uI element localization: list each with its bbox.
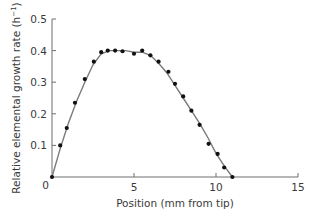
data-point — [198, 123, 202, 127]
y-tick-label: 0.1 — [30, 139, 47, 151]
data-point — [207, 142, 211, 146]
data-point — [73, 101, 77, 105]
x-tick-label: 5 — [131, 181, 138, 193]
data-point — [157, 60, 161, 64]
data-point — [120, 49, 124, 53]
data-point — [189, 109, 193, 113]
data-point — [132, 52, 136, 56]
data-point — [222, 165, 226, 169]
y-tick-label: 0.2 — [30, 108, 47, 120]
data-point — [113, 49, 117, 53]
data-point — [65, 126, 69, 130]
x-ticks: 51015 — [131, 173, 305, 193]
data-point — [173, 82, 177, 86]
data-point — [166, 70, 170, 74]
y-tick-label: 0.5 — [30, 13, 47, 25]
y-axis-label: Relative elemental growth rate (h−1) — [10, 2, 22, 193]
data-point — [83, 77, 87, 81]
y-tick-label: 0.3 — [30, 76, 47, 88]
data-point — [92, 60, 96, 64]
x-tick-label: 10 — [209, 181, 222, 193]
data-point — [216, 152, 220, 156]
data-point — [140, 49, 144, 53]
y-tick-label: 0 — [42, 179, 49, 191]
x-axis-label: Position (mm from tip) — [116, 197, 234, 209]
growth-rate-chart: 00.10.20.30.40.5 51015 Position (mm from… — [0, 0, 321, 219]
data-point — [99, 50, 103, 54]
data-point — [50, 175, 54, 179]
data-points — [50, 49, 235, 180]
data-point — [181, 94, 185, 98]
data-point — [230, 175, 234, 179]
data-point — [106, 49, 110, 53]
y-tick-label: 0.4 — [30, 45, 47, 57]
fitted-curve — [52, 51, 232, 177]
data-point — [148, 53, 152, 57]
data-point — [58, 143, 62, 147]
x-tick-label: 15 — [291, 181, 304, 193]
axes — [52, 19, 298, 177]
